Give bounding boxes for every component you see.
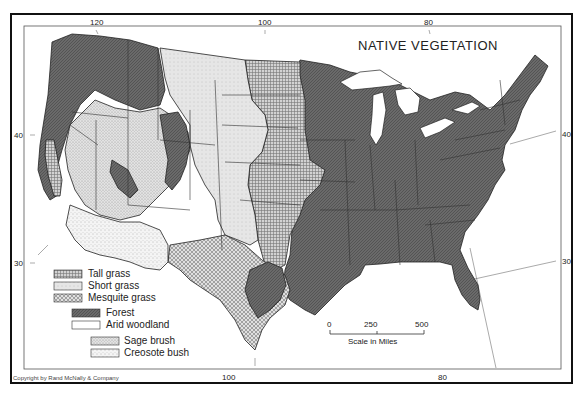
legend-label-tall-grass: Tall grass	[88, 268, 130, 279]
longitude-label-80-top: 80	[424, 18, 433, 27]
legend-swatch-forest	[72, 309, 100, 317]
latitude-label-30-left: 30	[14, 259, 23, 268]
latitude-label-40-right: 40	[562, 130, 571, 139]
copyright-notice: Copyright by Rand McNally & Company	[13, 375, 119, 381]
scale-tick-0: 0	[327, 320, 332, 329]
scale-bar: 0 250 500 Scale in Miles	[327, 320, 429, 346]
longitude-label-80-bottom: 80	[438, 373, 447, 382]
legend-swatch-tall-grass	[54, 270, 82, 278]
native-vegetation-map: NATIVE VEGETATION 120 100 80 40 30 40 30…	[0, 0, 580, 393]
scale-label: Scale in Miles	[348, 337, 397, 346]
longitude-label-100-top: 100	[258, 18, 272, 27]
legend-label-creosote-bush: Creosote bush	[124, 347, 189, 358]
scale-tick-250: 250	[364, 320, 378, 329]
legend-swatch-arid-woodland	[72, 321, 100, 329]
legend-swatch-mesquite-grass	[54, 294, 82, 302]
legend-label-sage-brush: Sage brush	[124, 335, 175, 346]
longitude-label-120-top: 120	[90, 18, 104, 27]
legend-label-forest: Forest	[106, 307, 135, 318]
map-title: NATIVE VEGETATION	[358, 38, 498, 53]
legend-label-short-grass: Short grass	[88, 280, 139, 291]
latitude-label-30-right: 30	[562, 257, 571, 266]
legend-label-mesquite-grass: Mesquite grass	[88, 292, 156, 303]
legend-swatch-short-grass	[54, 282, 82, 290]
scale-tick-500: 500	[415, 320, 429, 329]
legend: Tall grass Short grass Mesquite grass Fo…	[54, 268, 189, 358]
legend-swatch-creosote-bush	[91, 349, 119, 357]
longitude-label-100-bottom: 100	[222, 373, 236, 382]
legend-label-arid-woodland: Arid woodland	[106, 319, 169, 330]
legend-swatch-sage-brush	[91, 337, 119, 345]
latitude-label-40-left: 40	[14, 131, 23, 140]
